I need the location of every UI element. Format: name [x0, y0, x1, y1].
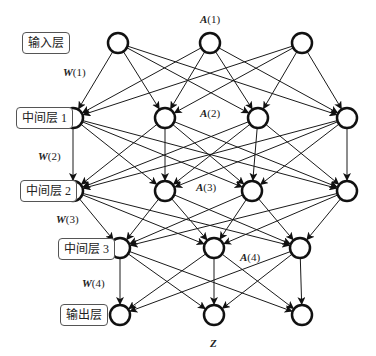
hidden3-node-3	[290, 238, 310, 258]
hidden1-node-3	[248, 108, 268, 128]
connection-edge	[175, 48, 294, 113]
connection-edge	[83, 48, 202, 113]
hidden1-layer-label: 中间层 1	[16, 107, 73, 129]
connection-edge	[307, 199, 341, 240]
activation-label-3: A(3)	[196, 181, 216, 193]
activation-label-2: A(2)	[200, 107, 220, 119]
weight-label-3: W(3)	[56, 213, 79, 225]
connection-edge	[83, 46, 292, 114]
connection-edge	[300, 258, 301, 304]
activation-label-1: A(1)	[200, 13, 220, 25]
connection-edge	[83, 122, 248, 187]
input-layer-label: 输入层	[22, 32, 70, 54]
weight-label-2: W(2)	[38, 150, 61, 162]
connections	[73, 46, 347, 311]
hidden2-node-2	[155, 181, 175, 201]
input-node-1	[108, 33, 128, 53]
hidden2-node-4	[337, 181, 357, 201]
connection-edge	[307, 52, 341, 109]
input-node-3	[292, 33, 312, 53]
connection-edge	[79, 52, 113, 109]
connection-edge	[224, 195, 338, 244]
input-node-2	[200, 33, 220, 53]
connection-edge	[219, 48, 338, 113]
hidden3-node-2	[204, 238, 224, 258]
hidden1-node-2	[155, 108, 175, 128]
output-node-1	[110, 305, 130, 325]
hidden2-layer-label: 中间层 2	[20, 180, 77, 202]
output-node-3	[292, 305, 312, 325]
output-z-label: Z	[210, 337, 217, 349]
hidden1-node-4	[337, 108, 357, 128]
hidden3-layer-label: 中间层 3	[58, 238, 115, 260]
activation-label-4: A(4)	[240, 251, 260, 263]
output-layer-label: 输出层	[60, 304, 108, 326]
connection-edge	[174, 195, 290, 244]
connection-edge	[82, 122, 242, 187]
weight-label-1: W(1)	[63, 66, 86, 78]
output-node-2	[204, 305, 224, 325]
hidden2-node-3	[242, 181, 262, 201]
connection-edge	[173, 124, 244, 184]
weight-label-4: W(4)	[82, 277, 105, 289]
connection-edge	[258, 199, 292, 240]
